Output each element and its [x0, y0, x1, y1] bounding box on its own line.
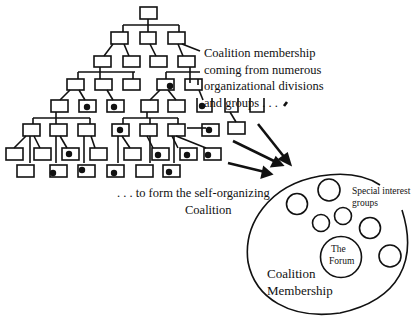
- special-interest-group-circle: [313, 215, 330, 232]
- member-dot: [155, 152, 161, 158]
- org-box: [140, 7, 157, 19]
- arrow: [258, 124, 285, 158]
- org-box: [124, 148, 141, 160]
- org-box: [168, 32, 185, 44]
- coalition-diagram: Coalition membership coming from numerou…: [0, 0, 413, 319]
- special-interest-label: Special interest groups: [352, 185, 410, 209]
- member-dot: [166, 169, 172, 175]
- membership-label: Coalition Membership: [267, 265, 333, 299]
- arrow-head-icon: [262, 168, 271, 177]
- org-box: [168, 124, 185, 136]
- org-box: [94, 56, 111, 67]
- label-line: groups: [352, 197, 410, 209]
- org-box: [140, 32, 156, 44]
- label-line: Special interest: [352, 185, 410, 197]
- special-interest-group-circle: [287, 194, 308, 215]
- org-box: [150, 56, 167, 67]
- org-box: [90, 148, 107, 160]
- special-interest-group-circle: [360, 218, 381, 239]
- caption-line: coming from numerous: [204, 62, 324, 79]
- member-dot: [79, 167, 85, 173]
- special-interest-group-circle: [335, 208, 352, 225]
- org-box: [6, 148, 23, 160]
- label-line: Coalition: [267, 265, 333, 282]
- special-interest-group-circle: [379, 245, 401, 267]
- special-interest-group-circle: [318, 179, 340, 201]
- org-box: [50, 124, 67, 136]
- org-box: [178, 56, 195, 67]
- org-box: [111, 32, 128, 44]
- member-dot: [111, 170, 117, 176]
- forum-label: The Forum: [329, 243, 354, 267]
- caption-line: Coalition membership: [204, 45, 324, 62]
- org-box: [136, 165, 153, 177]
- member-dot: [205, 152, 211, 158]
- member-dot: [84, 104, 90, 110]
- org-box: [17, 165, 34, 177]
- org-box: [51, 100, 68, 112]
- org-box: [95, 79, 112, 90]
- caption-line: Coalition: [117, 202, 270, 219]
- source-caption: Coalition membership coming from numerou…: [204, 45, 324, 111]
- org-box: [228, 122, 245, 134]
- caption-line: . . . to form the self-organizing: [117, 185, 270, 202]
- target-caption: . . . to form the self-organizing Coalit…: [117, 185, 270, 218]
- org-box: [23, 124, 40, 136]
- caption-line: organizational divisions: [204, 78, 324, 95]
- member-dot: [111, 104, 117, 110]
- arrow: [228, 163, 265, 172]
- org-box: [123, 56, 140, 67]
- member-dot: [117, 127, 123, 133]
- org-box: [123, 79, 140, 90]
- label-line: Forum: [329, 255, 354, 267]
- member-dot: [167, 83, 173, 89]
- org-box: [78, 124, 95, 136]
- org-box: [141, 100, 158, 112]
- org-box: [67, 79, 84, 90]
- member-dot: [66, 151, 72, 157]
- org-box: [168, 100, 185, 112]
- org-box: [34, 148, 51, 160]
- org-box: [185, 79, 202, 90]
- arrows: [228, 102, 290, 177]
- arrow: [233, 141, 276, 162]
- label-line: The: [329, 243, 354, 255]
- member-dot: [206, 127, 212, 133]
- org-box: [140, 124, 157, 136]
- label-line: Membership: [267, 282, 333, 299]
- member-dot: [50, 170, 56, 176]
- member-dots: [50, 83, 212, 176]
- member-dot: [184, 152, 190, 158]
- caption-line: and groups . . .: [204, 95, 324, 112]
